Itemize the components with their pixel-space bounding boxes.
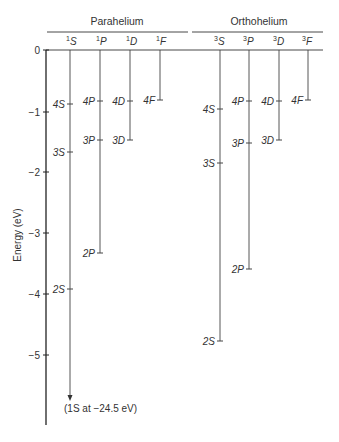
col-1D: 1D bbox=[126, 35, 137, 47]
column-headers: 1S 1P 1D 1F 3S 3P 3D 3F bbox=[66, 35, 313, 47]
level-ortho-4D: 4D bbox=[261, 96, 274, 107]
ortho-P-column: 4P 3P 2P bbox=[231, 50, 252, 275]
parahelium-header: Parahelium bbox=[47, 15, 188, 32]
orthohelium-header: Orthohelium bbox=[192, 15, 323, 32]
parahelium-title: Parahelium bbox=[90, 15, 143, 27]
tick-minus-2: −2 bbox=[29, 167, 41, 178]
tick-minus-3: −3 bbox=[29, 228, 41, 239]
level-para-3S: 3S bbox=[53, 147, 66, 158]
y-axis: 0 −1 −2 −3 −4 −5 Energy (eV) bbox=[12, 45, 49, 425]
col-1P: 1P bbox=[96, 35, 107, 47]
ortho-D-column: 4D 3D bbox=[261, 50, 282, 146]
tick-minus-4: −4 bbox=[29, 289, 41, 300]
level-ortho-3D: 3D bbox=[261, 135, 274, 146]
level-ortho-4P: 4P bbox=[232, 96, 245, 107]
level-ortho-4S: 4S bbox=[203, 104, 216, 115]
level-ortho-2P: 2P bbox=[231, 264, 245, 275]
level-ortho-3P: 3P bbox=[232, 138, 245, 149]
level-para-2P: 2P bbox=[82, 248, 96, 259]
level-para-4F: 4F bbox=[143, 95, 156, 106]
para-P-column: 4P 3P 2P bbox=[82, 50, 103, 259]
y-axis-label: Energy (eV) bbox=[12, 208, 23, 261]
level-para-2S: 2S bbox=[52, 284, 66, 295]
energy-level-diagram: Parahelium Orthohelium 1S 1P 1D 1F 3S 3P… bbox=[0, 0, 339, 442]
level-ortho-4F: 4F bbox=[291, 95, 304, 106]
col-3S: 3S bbox=[214, 35, 225, 47]
col-3P: 3P bbox=[243, 35, 254, 47]
level-para-3D: 3D bbox=[112, 135, 125, 146]
level-ortho-3S: 3S bbox=[203, 158, 216, 169]
col-3F: 3F bbox=[302, 35, 313, 47]
para-S-column: 4S 3S 2S bbox=[52, 50, 73, 401]
level-para-4D: 4D bbox=[112, 96, 125, 107]
level-para-3P: 3P bbox=[83, 135, 96, 146]
para-F-column: 4F bbox=[143, 50, 163, 106]
level-para-4P: 4P bbox=[83, 96, 96, 107]
arrow-down-icon bbox=[68, 395, 73, 401]
para-D-column: 4D 3D bbox=[112, 50, 133, 146]
col-3D: 3D bbox=[273, 35, 284, 47]
ortho-S-column: 4S 3S 2S bbox=[202, 50, 223, 347]
ground-state-note: (1S at −24.5 eV) bbox=[64, 403, 137, 414]
tick-0: 0 bbox=[34, 45, 40, 56]
col-1F: 1F bbox=[156, 35, 167, 47]
level-ortho-2S: 2S bbox=[202, 336, 216, 347]
tick-minus-1: −1 bbox=[29, 107, 41, 118]
col-1S: 1S bbox=[66, 35, 77, 47]
ortho-F-column: 4F bbox=[291, 50, 311, 106]
tick-minus-5: −5 bbox=[29, 350, 41, 361]
level-para-4S: 4S bbox=[53, 99, 66, 110]
orthohelium-title: Orthohelium bbox=[230, 15, 287, 27]
